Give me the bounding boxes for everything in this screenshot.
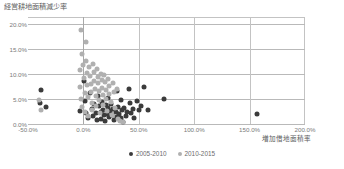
scatter-point [118, 98, 123, 103]
x-axis-tick-label: 50.0% [130, 126, 148, 133]
scatter-point [98, 111, 103, 116]
gridline-horizontal [28, 49, 305, 50]
legend-marker-icon [178, 152, 182, 156]
scatter-point [109, 113, 114, 118]
x-axis-tick-label: 0.0% [76, 126, 90, 133]
scatter-point [114, 87, 119, 92]
scatter-point [79, 27, 84, 32]
plot-frame-right [304, 17, 305, 124]
x-axis-tick-label: 200.0% [295, 126, 316, 133]
scatter-point [127, 100, 132, 105]
scatter-point [104, 109, 109, 114]
gridline-horizontal [28, 24, 305, 25]
y-axis-tick-label: 15.0% [9, 46, 27, 53]
scatter-point [86, 114, 91, 119]
legend-item[interactable]: 2005-2010 [129, 150, 167, 157]
legend-label: 2005-2010 [136, 150, 167, 157]
scatter-point [126, 87, 131, 92]
scatter-point [85, 95, 90, 100]
scatter-point [145, 107, 150, 112]
scatter-point [91, 61, 96, 66]
scatter-point [112, 106, 117, 111]
legend-item[interactable]: 2010-2015 [178, 150, 216, 157]
scatter-point [108, 100, 113, 105]
scatter-point [88, 74, 93, 79]
gridline-horizontal [28, 74, 305, 75]
scatter-point [38, 88, 43, 93]
scatter-chart-figure: 経営耕地面積減少率 0.0%5.0%10.0%15.0%20.0% -50.0%… [0, 0, 344, 169]
scatter-point [162, 97, 167, 102]
scatter-point [94, 104, 99, 109]
x-axis-tick-label: 100.0% [184, 126, 205, 133]
plot-area: 0.0%5.0%10.0%15.0%20.0% -50.0%0.0%50.0%1… [28, 17, 305, 124]
gridline-vertical [194, 17, 195, 124]
scatter-point [142, 85, 147, 90]
x-axis-title: 増加借地面積率 [262, 135, 311, 143]
x-axis-tick-label: 150.0% [239, 126, 260, 133]
y-axis-tick-label: 10.0% [9, 71, 27, 78]
scatter-point [103, 119, 108, 124]
legend-label: 2010-2015 [185, 150, 216, 157]
scatter-point [37, 98, 42, 103]
scatter-point [83, 59, 88, 64]
legend-marker-icon [129, 152, 133, 156]
chart-legend: 2005-20102010-2015 [0, 150, 344, 157]
scatter-point [110, 81, 115, 86]
scatter-point [78, 85, 83, 90]
scatter-point [101, 103, 106, 108]
scatter-point [77, 68, 82, 73]
x-axis-tick-label: -50.0% [18, 126, 38, 133]
scatter-point [130, 106, 135, 111]
scatter-point [84, 40, 89, 45]
scatter-point [255, 111, 260, 116]
scatter-point [90, 108, 95, 113]
scatter-point [134, 99, 139, 104]
scatter-point [79, 51, 84, 56]
y-axis-tick-label: 5.0% [13, 96, 27, 103]
chart-title: 経営耕地面積減少率 [4, 2, 67, 11]
scatter-point [43, 105, 48, 110]
scatter-point [39, 107, 44, 112]
plot-frame-top [28, 17, 305, 18]
scatter-point [132, 115, 137, 120]
gridline-horizontal [28, 124, 305, 125]
gridline-vertical [250, 17, 251, 124]
scatter-point [105, 77, 110, 82]
y-axis-tick-label: 20.0% [9, 21, 27, 28]
scatter-point [139, 104, 144, 109]
scatter-point [81, 76, 86, 81]
scatter-point [121, 120, 126, 125]
scatter-point [78, 96, 83, 101]
